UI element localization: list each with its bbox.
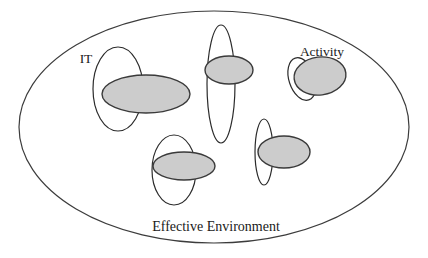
shaded-ellipse-top-center — [205, 56, 253, 84]
shaded-ellipse-bottom-center — [153, 152, 215, 180]
shaded-ellipse-it — [102, 75, 190, 113]
label-it: IT — [80, 51, 93, 66]
diagram-canvas: IT Activity Effective Environment — [0, 0, 428, 258]
pair-top-center — [205, 25, 253, 143]
pair-bottom-center — [152, 135, 215, 205]
pair-it — [93, 47, 190, 131]
shaded-ellipse-right-center — [258, 136, 310, 168]
pair-activity — [283, 54, 348, 104]
concept-diagram-svg: IT Activity Effective Environment — [0, 0, 428, 258]
pair-right-center — [255, 119, 310, 185]
label-activity: Activity — [300, 44, 344, 59]
label-effective-environment: Effective Environment — [152, 219, 280, 234]
